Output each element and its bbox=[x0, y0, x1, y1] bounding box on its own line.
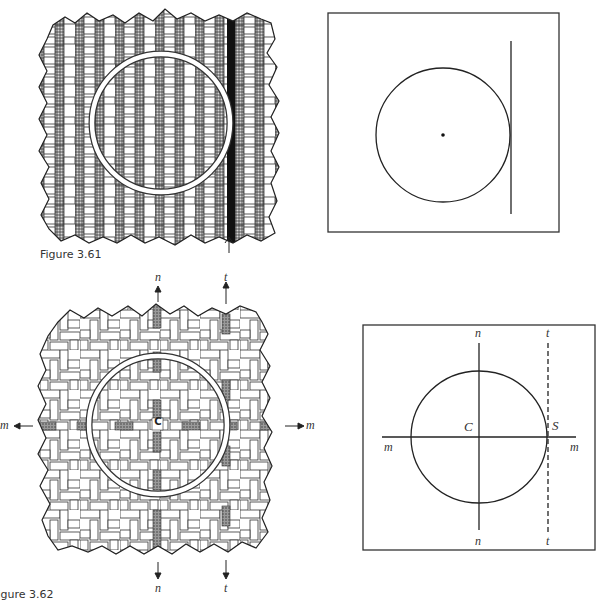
label-top-n: n bbox=[475, 326, 481, 341]
label-left-m: m bbox=[384, 440, 393, 455]
label-bottom-n: n bbox=[155, 581, 161, 596]
weave-pattern-basket bbox=[35, 5, 285, 250]
label-right-m: m bbox=[570, 440, 579, 455]
label-center-c: C bbox=[464, 419, 473, 435]
label-right-m: m bbox=[306, 418, 315, 433]
figure-3-62-weave: C n t m m n t bbox=[0, 270, 320, 598]
label-top-t: t bbox=[224, 270, 227, 285]
label-bottom-t: t bbox=[224, 581, 227, 596]
figure-caption: Figure 3.62 bbox=[0, 588, 54, 601]
label-bottom-n: n bbox=[475, 534, 481, 549]
label-top-n: n bbox=[155, 270, 161, 285]
figure-3-62-diagram: n t m m n t C S bbox=[360, 322, 596, 552]
weave-pattern-herringbone bbox=[0, 270, 320, 598]
figure-3-61-weave bbox=[35, 5, 285, 250]
figure-caption: Figure 3.61 bbox=[40, 248, 102, 261]
center-label: C bbox=[153, 416, 163, 427]
label-top-t: t bbox=[546, 326, 549, 341]
center-dot bbox=[441, 133, 445, 137]
figure-3-61-diagram bbox=[325, 10, 565, 235]
label-tangent-point-s: S bbox=[552, 418, 559, 434]
label-left-m: m bbox=[0, 418, 9, 433]
label-bottom-t: t bbox=[546, 534, 549, 549]
up-arrow-icon bbox=[222, 236, 236, 254]
